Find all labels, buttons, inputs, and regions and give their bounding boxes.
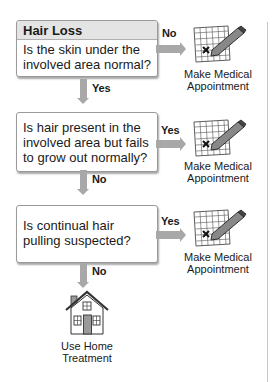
arrow-right-2 xyxy=(156,140,180,148)
flowchart-title: Hair Loss xyxy=(17,21,157,40)
divider-line xyxy=(267,22,268,382)
branch-label-2-down: No xyxy=(92,173,106,185)
outcome-2-line2: Appointment xyxy=(178,172,258,184)
question-box-1: Hair Loss Is the skin under the involved… xyxy=(16,20,158,77)
outcome-1-line1: Make Medical xyxy=(178,68,258,80)
final-outcome-line2: Treatment xyxy=(47,352,127,364)
outcome-label-2: Make Medical Appointment xyxy=(178,160,258,184)
question-text-2: Is hair present in the involved area but… xyxy=(17,113,157,171)
question-box-3: Is continual hair pulling suspected? xyxy=(16,205,158,263)
question-text-1: Is the skin under the involved area norm… xyxy=(17,40,157,76)
arrow-down-3 xyxy=(80,263,87,282)
branch-label-2-side: Yes xyxy=(161,124,179,136)
calendar-pencil-icon xyxy=(190,118,248,158)
outcome-label-1: Make Medical Appointment xyxy=(178,68,258,92)
question-text-3: Is continual hair pulling suspected? xyxy=(17,206,157,252)
branch-label-1-down: Yes xyxy=(92,82,110,94)
outcome-3-line2: Appointment xyxy=(178,263,258,275)
house-icon xyxy=(64,290,110,336)
branch-label-1-side: No xyxy=(162,27,176,39)
arrow-right-1 xyxy=(156,45,180,53)
question-box-2: Is hair present in the involved area but… xyxy=(16,112,158,172)
outcome-2-line1: Make Medical xyxy=(178,160,258,172)
calendar-pencil-icon xyxy=(190,24,248,64)
outcome-1-line2: Appointment xyxy=(178,80,258,92)
outcome-label-3: Make Medical Appointment xyxy=(178,251,258,275)
branch-label-3-down: No xyxy=(92,265,106,277)
final-outcome-line1: Use Home xyxy=(47,340,127,352)
arrow-down-2 xyxy=(80,170,87,189)
outcome-3-line1: Make Medical xyxy=(178,251,258,263)
arrow-down-1 xyxy=(80,79,87,98)
arrow-right-3 xyxy=(156,231,180,239)
branch-label-3-side: Yes xyxy=(161,215,179,227)
calendar-pencil-icon xyxy=(190,208,248,248)
final-outcome-label: Use Home Treatment xyxy=(47,340,127,364)
